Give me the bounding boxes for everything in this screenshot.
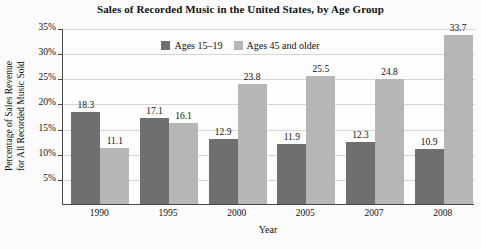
bar-value-label: 25.5 — [301, 64, 341, 74]
plot-area: 5%10%15%20%25%30%35% 18.311.117.116.112.… — [62, 29, 474, 205]
y-axis-tick-label: 5% — [22, 173, 56, 183]
x-axis-tick-label: 2007 — [344, 208, 404, 218]
bar-group: 12.324.8 — [346, 28, 404, 204]
y-axis-tick — [58, 130, 63, 131]
bar-value-label: 33.7 — [438, 23, 478, 33]
y-axis-tick-label: 20% — [22, 97, 56, 107]
bar — [238, 84, 267, 204]
bar — [140, 118, 169, 204]
y-axis-title-line1: Percentage of Sales Revenue — [3, 61, 15, 171]
y-axis-tick — [58, 79, 63, 80]
bar — [169, 123, 198, 204]
y-axis-tick-label: 35% — [22, 22, 56, 32]
bar-chart: Sales of Recorded Music in the United St… — [0, 0, 481, 249]
bar-value-label: 23.8 — [232, 72, 272, 82]
x-axis-title: Year — [62, 224, 474, 235]
y-axis-tick — [58, 180, 63, 181]
x-axis-tick-label: 1995 — [138, 208, 198, 218]
bar-group: 12.923.8 — [209, 28, 267, 204]
y-axis-tick — [58, 155, 63, 156]
bar-group: 18.311.1 — [71, 28, 129, 204]
bar — [415, 149, 444, 204]
x-axis-tick-label: 2008 — [413, 208, 473, 218]
bar-value-label: 24.8 — [370, 67, 410, 77]
bar-group: 17.116.1 — [140, 28, 198, 204]
bar-group: 10.933.7 — [415, 28, 473, 204]
bar-value-label: 18.3 — [66, 100, 106, 110]
bar — [100, 148, 129, 204]
bar-value-label: 16.1 — [164, 111, 204, 121]
y-axis-tick — [58, 104, 63, 105]
x-axis-tick-label: 1990 — [69, 208, 129, 218]
bar — [209, 139, 238, 204]
bar — [444, 35, 473, 204]
y-axis-tick-label: 15% — [22, 123, 56, 133]
y-axis-tick — [58, 54, 63, 55]
y-axis-tick-label: 10% — [22, 148, 56, 158]
x-axis-tick-label: 2000 — [207, 208, 267, 218]
y-axis-tick-label: 30% — [22, 47, 56, 57]
bar — [346, 142, 375, 204]
bar — [306, 76, 335, 204]
chart-title: Sales of Recorded Music in the United St… — [0, 3, 481, 15]
y-axis-tick-label: 25% — [22, 72, 56, 82]
x-axis-tick-label: 2005 — [275, 208, 335, 218]
bar — [277, 144, 306, 204]
y-axis-tick — [58, 29, 63, 30]
bar-group: 11.925.5 — [277, 28, 335, 204]
bar-value-label: 11.1 — [95, 136, 135, 146]
bar — [71, 112, 100, 204]
bar — [375, 79, 404, 204]
